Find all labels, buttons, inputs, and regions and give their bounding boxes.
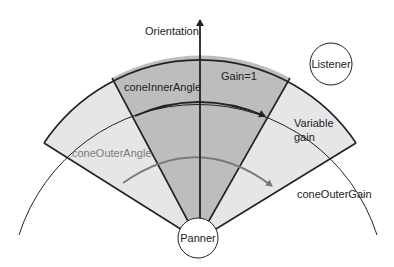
cone-outer-angle-label: coneOuterAngle: [72, 147, 152, 159]
cone-outer-gain-label: coneOuterGain: [297, 188, 372, 200]
orientation-label: Orientation: [145, 25, 199, 37]
cone-inner-angle-label: coneInnerAngle: [124, 81, 201, 93]
variable-gain-label-line1: Variable: [294, 117, 334, 129]
panner-label: Panner: [180, 232, 216, 244]
listener-label: Listener: [311, 58, 350, 70]
panner-cone-diagram: Listener Panner Orientation Gain=1 coneI…: [0, 0, 394, 267]
variable-gain-label-line2: gain: [294, 131, 315, 143]
gain-one-label: Gain=1: [221, 70, 257, 82]
